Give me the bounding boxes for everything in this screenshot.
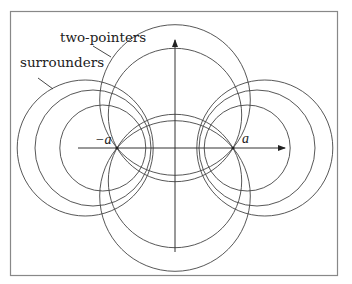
surrounders-label: surrounders xyxy=(20,54,104,70)
focus-pos-a xyxy=(231,146,234,149)
focus-neg-a xyxy=(115,146,118,149)
apollonian-circles-diagram: −a a two-pointers surrounders xyxy=(0,0,352,284)
figure-frame xyxy=(11,12,338,276)
pos-a-label: a xyxy=(242,131,249,146)
neg-a-label: −a xyxy=(95,132,111,147)
two-pointers-label: two-pointers xyxy=(60,29,146,45)
surrounders-leader-line xyxy=(38,78,53,89)
